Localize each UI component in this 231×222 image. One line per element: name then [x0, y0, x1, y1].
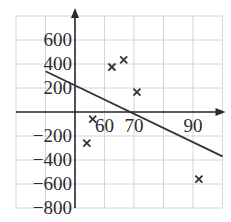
y-tick-label: −800: [33, 197, 72, 218]
y-tick-label: −600: [33, 173, 72, 194]
data-point-x-marker: [83, 140, 90, 147]
x-axis-arrow-icon: [216, 108, 226, 116]
x-tick-label: 90: [184, 115, 203, 136]
y-tick-label: 600: [44, 29, 73, 50]
data-point-x-marker: [120, 56, 127, 63]
y-axis-arrow-icon: [71, 8, 79, 18]
y-tick-label: −400: [33, 149, 72, 170]
x-tick-label: 70: [125, 115, 144, 136]
data-point-x-marker: [108, 64, 115, 71]
data-point-x-marker: [195, 176, 202, 183]
y-tick-label: −200: [33, 125, 72, 146]
y-tick-labels: 600400200−200−400−600−800: [33, 29, 72, 218]
scatter-chart: 600400200−200−400−600−800 607090: [0, 0, 231, 222]
y-tick-label: 200: [44, 77, 73, 98]
x-tick-label: 60: [95, 115, 114, 136]
x-tick-labels: 607090: [95, 115, 203, 136]
y-tick-label: 400: [44, 53, 73, 74]
